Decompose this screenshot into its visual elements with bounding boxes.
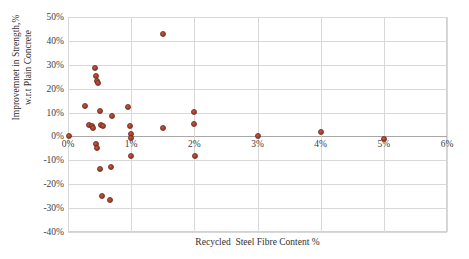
x-tick-label: 3% [238, 139, 278, 149]
data-point-marker [160, 125, 166, 131]
data-point-marker [125, 104, 131, 110]
scatter-chart-figure: 50%40%30%20%10%0%-10%-20%-30%-40% 0%1%2%… [0, 0, 469, 259]
data-point-marker [128, 135, 134, 141]
x-tick-label: 0% [48, 139, 88, 149]
data-point-marker [97, 108, 103, 114]
gridline-vertical [321, 17, 322, 232]
data-point-marker [160, 31, 166, 37]
y-axis-title: Improvemnet in Strength,% w.r.t Plain Co… [11, 0, 34, 148]
gridline-vertical [258, 17, 259, 232]
y-tick-label: -20% [26, 179, 64, 189]
gridline-vertical [68, 17, 69, 232]
data-point-marker [92, 65, 98, 71]
x-tick-label: 4% [301, 139, 341, 149]
gridline-horizontal [68, 232, 447, 233]
y-tick-label: -40% [26, 227, 64, 237]
x-tick-label: 1% [111, 139, 151, 149]
data-point-marker [82, 103, 88, 109]
y-tick-label: -10% [26, 155, 64, 165]
data-point-marker [127, 123, 133, 129]
y-axis-title-line1: Improvemnet in Strength,% [11, 0, 23, 148]
x-axis-title: Recycled Steel Fibre Content % [68, 236, 447, 248]
gridline-vertical [447, 17, 448, 232]
data-point-marker [108, 164, 114, 170]
x-tick-label: 6% [427, 139, 467, 149]
data-point-marker [318, 129, 324, 135]
x-tick-label: 2% [174, 139, 214, 149]
gridline-vertical [384, 17, 385, 232]
data-point-marker [255, 133, 261, 139]
data-point-marker [99, 193, 105, 199]
data-point-marker [192, 153, 198, 159]
y-axis-title-line2: w.r.t Plain Concrete [22, 0, 34, 148]
y-tick-label: -30% [26, 203, 64, 213]
